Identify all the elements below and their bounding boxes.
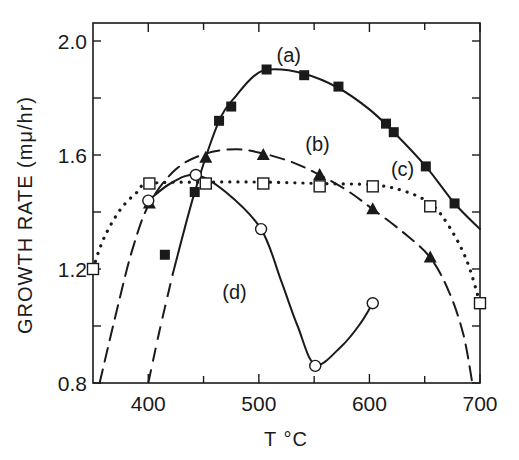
- data-point-a-filled-square-marker: [421, 161, 431, 171]
- data-point-b-filled-triangle-marker: [366, 202, 379, 214]
- data-point-a-filled-square-marker: [262, 65, 272, 75]
- data-point-a-filled-square-marker: [299, 70, 309, 80]
- series-curve-a: [173, 69, 480, 274]
- x-axis-title: T °C: [264, 428, 308, 450]
- data-point-a-filled-square-marker: [214, 116, 224, 126]
- growth-rate-chart: 400500600700 0.81.21.62.0 (a)(b)(c)(d) T…: [0, 0, 519, 460]
- y-tick-label: 1.2: [58, 258, 87, 281]
- series-markers: [88, 65, 486, 372]
- data-point-a-filled-square-marker: [190, 187, 200, 197]
- data-point-c-open-square-marker: [314, 181, 325, 192]
- series-curve-d: [148, 175, 372, 365]
- y-tick-labels: 0.81.21.62.0: [58, 30, 87, 395]
- data-point-a-filled-square-marker: [381, 119, 391, 129]
- series-label-a: (a): [276, 44, 300, 66]
- data-point-c-open-square-marker: [258, 178, 269, 189]
- x-tick-label: 600: [352, 392, 387, 415]
- data-point-d-open-circle-marker: [367, 298, 378, 309]
- x-tick-labels: 400500600700: [131, 392, 498, 415]
- data-point-a-filled-square-marker: [450, 198, 460, 208]
- y-tick-label: 2.0: [58, 30, 87, 53]
- y-tick-label: 0.8: [58, 372, 87, 395]
- y-axis-title: GROWTH RATE (mμ/hr): [14, 96, 36, 334]
- data-point-d-open-circle-marker: [256, 224, 267, 235]
- data-point-d-open-circle-marker: [190, 169, 201, 180]
- x-tick-label: 400: [131, 392, 166, 415]
- x-tick-label: 700: [462, 392, 497, 415]
- data-point-c-open-square-marker: [88, 264, 99, 275]
- series-label-c: (c): [391, 158, 414, 180]
- data-point-c-open-square-marker: [425, 201, 436, 212]
- data-point-c-open-square-marker: [475, 298, 486, 309]
- y-tick-label: 1.6: [58, 144, 87, 167]
- data-point-a-filled-square-marker: [226, 102, 236, 112]
- series-curves: [93, 69, 480, 383]
- series-label-b: (b): [305, 133, 329, 155]
- data-point-b-filled-triangle-marker: [313, 168, 326, 180]
- data-point-c-open-square-marker: [367, 181, 378, 192]
- data-point-b-filled-triangle-marker: [257, 148, 270, 160]
- data-point-a-filled-square-marker: [333, 82, 343, 92]
- data-point-c-open-square-marker: [144, 178, 155, 189]
- data-point-a-filled-square-marker: [389, 127, 399, 137]
- series-extrapolation-a: [148, 275, 172, 383]
- data-point-d-open-circle-marker: [143, 195, 154, 206]
- series-label-d: (d): [222, 281, 246, 303]
- x-tick-label: 500: [241, 392, 276, 415]
- data-point-c-open-square-marker: [200, 178, 211, 189]
- data-point-d-open-circle-marker: [310, 360, 321, 371]
- data-point-a-filled-square-marker: [160, 250, 170, 260]
